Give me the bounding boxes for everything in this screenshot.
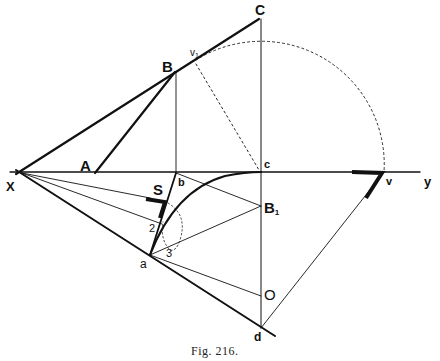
line-a-o <box>150 255 261 296</box>
ray-x-2 <box>22 173 162 224</box>
label-y: y <box>424 174 432 189</box>
label-x: X <box>6 179 15 194</box>
line-a-b <box>95 72 175 173</box>
line-x-d <box>16 170 275 336</box>
label-3: 3 <box>166 247 172 259</box>
dotted-line-v1-c <box>196 64 259 170</box>
s-marker <box>146 199 165 218</box>
label-d: d <box>254 330 261 344</box>
label-v: v <box>386 175 393 187</box>
dotted-arc-v1-v <box>196 41 384 172</box>
label-2: 2 <box>149 222 155 234</box>
dotted-arc-2-3 <box>162 203 182 250</box>
label-c: c <box>264 158 270 170</box>
line-x-c <box>16 19 259 174</box>
label-S: S <box>153 181 163 198</box>
label-C: C <box>255 2 265 18</box>
figure-216-diagram: X y A B C v1 b c v S B1 2 3 a O d Fig. 2… <box>0 0 440 361</box>
v-marker <box>352 172 382 198</box>
label-v1: v1 <box>190 47 199 59</box>
label-A: A <box>80 157 91 174</box>
label-a: a <box>140 257 147 271</box>
label-B: B <box>162 58 173 75</box>
label-O: O <box>264 286 276 303</box>
label-B1: B1 <box>264 199 280 217</box>
figure-caption: Fig. 216. <box>191 344 239 358</box>
label-b: b <box>178 176 185 188</box>
